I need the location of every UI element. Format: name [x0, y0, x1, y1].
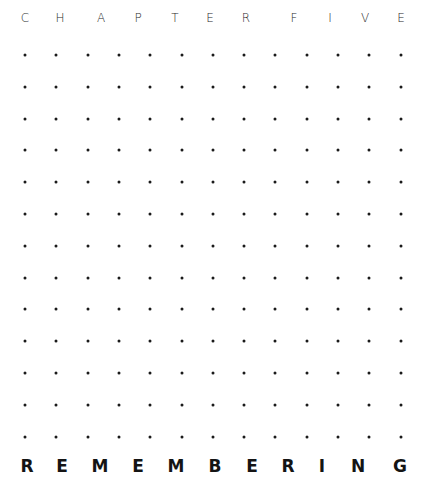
chapter-title-letter: R — [281, 456, 294, 476]
grid-dot — [337, 340, 340, 343]
grid-dot — [243, 213, 246, 216]
chapter-opener-page: CHAPTERFIVE REMEMBERING — [0, 0, 428, 497]
grid-dot — [55, 372, 58, 375]
grid-dot — [24, 117, 27, 120]
grid-dot — [211, 181, 214, 184]
grid-dot — [149, 403, 152, 406]
grid-dot — [399, 340, 402, 343]
grid-dot — [86, 213, 89, 216]
grid-dot — [399, 149, 402, 152]
grid-dot — [399, 372, 402, 375]
grid-dot — [305, 276, 308, 279]
grid-dot — [180, 308, 183, 311]
grid-dot — [24, 403, 27, 406]
grid-dot — [180, 244, 183, 247]
grid-dot — [368, 117, 371, 120]
grid-dot — [55, 85, 58, 88]
grid-dot — [243, 276, 246, 279]
chapter-title-letter: E — [246, 456, 258, 476]
grid-dot — [399, 403, 402, 406]
grid-dot — [55, 149, 58, 152]
grid-dot — [55, 244, 58, 247]
chapter-label-letter: E — [397, 10, 405, 26]
grid-dot — [55, 340, 58, 343]
chapter-title-letter: I — [319, 456, 325, 476]
grid-dot — [149, 117, 152, 120]
grid-dot — [149, 340, 152, 343]
grid-dot — [117, 340, 120, 343]
grid-dot — [274, 308, 277, 311]
grid-dot — [399, 435, 402, 438]
grid-dot — [180, 85, 183, 88]
grid-dot — [211, 435, 214, 438]
grid-dot — [274, 54, 277, 57]
grid-dot — [86, 244, 89, 247]
grid-dot — [368, 213, 371, 216]
grid-dot — [274, 149, 277, 152]
grid-dot — [117, 54, 120, 57]
grid-dot — [86, 181, 89, 184]
grid-dot — [305, 308, 308, 311]
grid-dot — [337, 276, 340, 279]
grid-dot — [368, 244, 371, 247]
grid-dot — [117, 213, 120, 216]
grid-dot — [368, 435, 371, 438]
grid-dot — [24, 213, 27, 216]
grid-dot — [337, 213, 340, 216]
grid-dot — [337, 308, 340, 311]
chapter-label-letter: T — [171, 10, 178, 26]
chapter-title-letter: E — [56, 456, 68, 476]
grid-dot — [117, 403, 120, 406]
grid-dot — [337, 85, 340, 88]
grid-dot — [149, 435, 152, 438]
grid-dot — [368, 181, 371, 184]
grid-dot — [55, 181, 58, 184]
grid-dot — [305, 372, 308, 375]
grid-dot — [211, 117, 214, 120]
grid-dot — [117, 308, 120, 311]
grid-dot — [368, 54, 371, 57]
grid-dot — [305, 435, 308, 438]
grid-dot — [117, 85, 120, 88]
grid-dot — [274, 276, 277, 279]
grid-dot — [337, 403, 340, 406]
chapter-title-letter: B — [209, 456, 222, 476]
grid-dot — [24, 372, 27, 375]
grid-dot — [368, 340, 371, 343]
chapter-label-letter: E — [206, 10, 214, 26]
grid-dot — [274, 117, 277, 120]
grid-dot — [337, 244, 340, 247]
grid-dot — [86, 149, 89, 152]
grid-dot — [337, 181, 340, 184]
grid-dot — [243, 117, 246, 120]
grid-dot — [86, 435, 89, 438]
grid-dot — [180, 435, 183, 438]
grid-dot — [399, 276, 402, 279]
grid-dot — [55, 54, 58, 57]
grid-dot — [86, 308, 89, 311]
grid-dot — [149, 244, 152, 247]
grid-dot — [24, 149, 27, 152]
grid-dot — [274, 244, 277, 247]
grid-dot — [211, 276, 214, 279]
grid-dot — [117, 117, 120, 120]
grid-dot — [399, 54, 402, 57]
grid-dot — [337, 54, 340, 57]
grid-dot — [337, 149, 340, 152]
grid-dot — [24, 85, 27, 88]
grid-dot — [211, 372, 214, 375]
grid-dot — [180, 117, 183, 120]
grid-dot — [24, 435, 27, 438]
grid-dot — [305, 244, 308, 247]
grid-dot — [180, 149, 183, 152]
chapter-title-letter: G — [393, 456, 407, 476]
grid-dot — [305, 181, 308, 184]
grid-dot — [243, 372, 246, 375]
grid-dot — [86, 403, 89, 406]
grid-dot — [368, 149, 371, 152]
grid-dot — [117, 372, 120, 375]
grid-dot — [149, 276, 152, 279]
grid-dot — [86, 54, 89, 57]
grid-dot — [243, 85, 246, 88]
chapter-label-letter: V — [361, 10, 369, 26]
